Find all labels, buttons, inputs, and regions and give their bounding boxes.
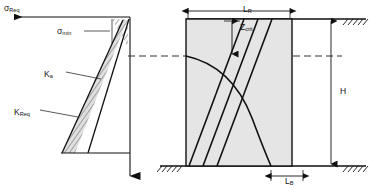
kreq-leader xyxy=(40,110,78,117)
lb-label: LB xyxy=(285,176,293,186)
bottom-ground-hatch-left xyxy=(157,166,182,172)
top-ground-hatch xyxy=(343,19,368,25)
figure-canvas: σReq σmin Ka KReq Zcrit LR H LB xyxy=(0,0,382,195)
ka-label: Ka xyxy=(44,69,53,79)
lr-label: LR xyxy=(243,4,252,14)
ka-leader xyxy=(66,72,101,79)
bottom-ground-hatch-right xyxy=(343,166,368,172)
sigma-min-label: σmin xyxy=(57,26,71,36)
kreq-label: KReq xyxy=(14,107,30,117)
zcrit-label: Zcrit xyxy=(240,22,253,32)
kreq-line xyxy=(62,20,123,153)
h-label: H xyxy=(340,86,346,96)
sigma-req-label: σReq xyxy=(4,3,20,13)
